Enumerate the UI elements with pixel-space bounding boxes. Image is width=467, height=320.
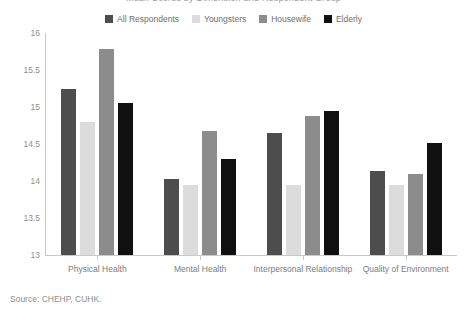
x-axis-category-label: Physical Health xyxy=(42,264,152,275)
y-axis-tick-label: 15.5 xyxy=(23,65,40,75)
chart-title-clipped: Mean Scores by Dimension and Respondent … xyxy=(0,0,467,5)
bar-group-container: Physical HealthMental HealthInterpersona… xyxy=(46,33,457,255)
legend-item-label: Youngsters xyxy=(204,15,246,24)
bar-group: Quality of Environment xyxy=(354,33,457,255)
x-axis-line xyxy=(45,255,457,256)
bar[interactable] xyxy=(286,185,301,255)
bar-group: Physical Health xyxy=(46,33,149,255)
bar[interactable] xyxy=(164,179,179,255)
chart-legend: All Respondents Youngsters Housewife Eld… xyxy=(0,12,467,26)
source-note: Source: CHEHP, CUHK. xyxy=(10,294,101,304)
plot-area: 1615.51514.51413.513 Physical HealthMent… xyxy=(45,33,457,255)
bar[interactable] xyxy=(427,143,442,255)
bar[interactable] xyxy=(408,174,423,255)
y-axis-tick-label: 14 xyxy=(31,176,40,186)
bar[interactable] xyxy=(202,131,217,255)
bar[interactable] xyxy=(267,133,282,255)
y-axis-tick-label: 16 xyxy=(31,28,40,38)
legend-item[interactable]: Elderly xyxy=(324,15,362,24)
bar[interactable] xyxy=(221,159,236,255)
bar[interactable] xyxy=(370,171,385,255)
bar-set xyxy=(149,33,252,255)
legend-item-label: All Respondents xyxy=(117,15,179,24)
legend-item[interactable]: All Respondents xyxy=(105,15,179,24)
legend-swatch-icon xyxy=(192,15,200,23)
x-axis-tick xyxy=(97,255,98,260)
bar[interactable] xyxy=(389,185,404,255)
x-axis-category-label: Quality of Environment xyxy=(351,264,461,275)
x-axis-tick xyxy=(200,255,201,260)
x-axis-category-label: Interpersonal Relationship xyxy=(248,264,358,275)
legend-item-label: Elderly xyxy=(336,15,362,24)
x-axis-tick xyxy=(406,255,407,260)
bar[interactable] xyxy=(305,116,320,255)
legend-swatch-icon xyxy=(105,15,113,23)
bar-set xyxy=(252,33,355,255)
bar-group: Interpersonal Relationship xyxy=(252,33,355,255)
bar-chart-figure: Mean Scores by Dimension and Respondent … xyxy=(0,0,467,320)
legend-item[interactable]: Housewife xyxy=(259,15,311,24)
bar[interactable] xyxy=(118,103,133,255)
bar[interactable] xyxy=(80,122,95,255)
bar[interactable] xyxy=(61,89,76,256)
bar[interactable] xyxy=(183,185,198,255)
legend-item-label: Housewife xyxy=(271,15,311,24)
legend-swatch-icon xyxy=(324,15,332,23)
y-axis-tick-label: 13.5 xyxy=(23,213,40,223)
x-axis-category-label: Mental Health xyxy=(145,264,255,275)
bar-set xyxy=(46,33,149,255)
legend-swatch-icon xyxy=(259,15,267,23)
bar[interactable] xyxy=(324,111,339,255)
bar-set xyxy=(354,33,457,255)
y-axis-tick-label: 13 xyxy=(31,250,40,260)
legend-item[interactable]: Youngsters xyxy=(192,15,246,24)
y-axis-tick-label: 15 xyxy=(31,102,40,112)
bar[interactable] xyxy=(99,49,114,255)
x-axis-tick xyxy=(303,255,304,260)
y-axis-tick-label: 14.5 xyxy=(23,139,40,149)
bar-group: Mental Health xyxy=(149,33,252,255)
